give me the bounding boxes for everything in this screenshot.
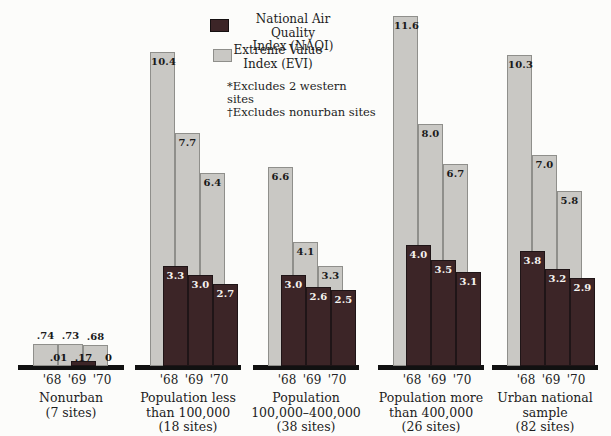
group-caption-line: Nonurban	[6, 391, 136, 406]
group-caption-line: (38 sites)	[241, 420, 371, 435]
naqi-value-label: 2.7	[214, 285, 237, 299]
group-caption-line: Population less	[123, 391, 253, 406]
naqi-value-label: 3.8	[521, 252, 544, 266]
naqi-value-label: 4.0	[407, 246, 430, 260]
naqi-bar: 3.3	[163, 266, 188, 366]
naqi-value-label: 3.1	[457, 273, 480, 287]
group-caption: Population100,000–400,000(38 sites)	[241, 391, 371, 435]
group-caption-line: (82 sites)	[480, 420, 610, 435]
group-caption: Nonurban(7 sites)	[6, 391, 136, 420]
evi-value-label: 7.7	[176, 134, 199, 148]
footnotes: *Excludes 2 western sites †Excludes nonu…	[227, 80, 377, 119]
group-caption-line: sample	[480, 406, 610, 421]
naqi-value-label: 3.5	[432, 261, 455, 275]
group-caption-line: Population	[241, 391, 371, 406]
naqi-bar: 2.5	[331, 290, 356, 366]
year-tick-label: '70	[447, 373, 477, 387]
naqi-value-label: 0	[92, 352, 125, 364]
evi-value-label: 3.3	[319, 267, 342, 281]
air-quality-bar-chart: National Air Quality Index (NAQI) Extrem…	[0, 0, 611, 436]
evi-value-label: 7.0	[533, 156, 556, 170]
naqi-bar: 2.7	[213, 284, 238, 366]
footnote-western-sites: *Excludes 2 western sites	[227, 80, 377, 106]
evi-value-label: 6.4	[201, 174, 224, 188]
naqi-value-label: 2.9	[571, 279, 594, 293]
evi-legend-label: Extreme Value Index (EVI)	[218, 44, 338, 71]
naqi-value-label: 3.2	[546, 270, 569, 284]
year-tick-label: '70	[204, 373, 234, 387]
year-tick-label: '70	[87, 373, 117, 387]
evi-value-label: 6.6	[269, 168, 292, 182]
group-caption-line: than 100,000	[123, 406, 253, 421]
group-caption-line: than 400,000	[366, 406, 496, 421]
group-caption-line: Population more	[366, 391, 496, 406]
evi-value-label: 6.7	[444, 165, 467, 179]
evi-value-label: 10.3	[508, 56, 531, 70]
evi-value-label: 4.1	[294, 243, 317, 257]
group-caption: Population lessthan 100,000(18 sites)	[123, 391, 253, 435]
naqi-bar: 3.5	[431, 260, 456, 366]
year-tick-label: '70	[322, 373, 352, 387]
naqi-bar: 3.0	[188, 275, 213, 366]
group-caption: Population morethan 400,000(26 sites)	[366, 391, 496, 435]
naqi-value-label: 3.0	[189, 276, 212, 290]
evi-value-label: 11.6	[394, 17, 417, 31]
naqi-value-label: 2.6	[307, 288, 330, 302]
naqi-legend-swatch	[210, 19, 229, 32]
naqi-bar: 3.1	[456, 272, 481, 366]
evi-value-label: .68	[78, 331, 113, 343]
group-caption: Urban nationalsample(82 sites)	[480, 391, 610, 435]
naqi-bar: 3.8	[520, 251, 545, 366]
group-caption-line: (26 sites)	[366, 420, 496, 435]
naqi-bar: 4.0	[406, 245, 431, 366]
naqi-bar: 3.2	[545, 269, 570, 366]
naqi-bar: 3.0	[281, 275, 306, 366]
evi-value-label: 10.4	[151, 53, 174, 67]
naqi-legend-line1: National Air Quality	[233, 13, 353, 40]
naqi-bar: 2.6	[306, 287, 331, 366]
naqi-value-label: 3.0	[282, 276, 305, 290]
group-caption-line: (18 sites)	[123, 420, 253, 435]
evi-value-label: 5.8	[558, 192, 581, 206]
naqi-value-label: 2.5	[332, 291, 355, 305]
evi-legend-line1: Extreme Value	[218, 44, 338, 58]
naqi-value-label: 3.3	[164, 267, 187, 281]
year-tick-label: '70	[561, 373, 591, 387]
evi-legend-line2: Index (EVI)	[218, 58, 338, 72]
group-caption-line: 100,000–400,000	[241, 406, 371, 421]
group-caption-line: (7 sites)	[6, 406, 136, 421]
group-caption-line: Urban national	[480, 391, 610, 406]
evi-value-label: 8.0	[419, 125, 442, 139]
footnote-nonurban-sites: †Excludes nonurban sites	[227, 106, 377, 119]
naqi-bar: 2.9	[570, 278, 595, 366]
